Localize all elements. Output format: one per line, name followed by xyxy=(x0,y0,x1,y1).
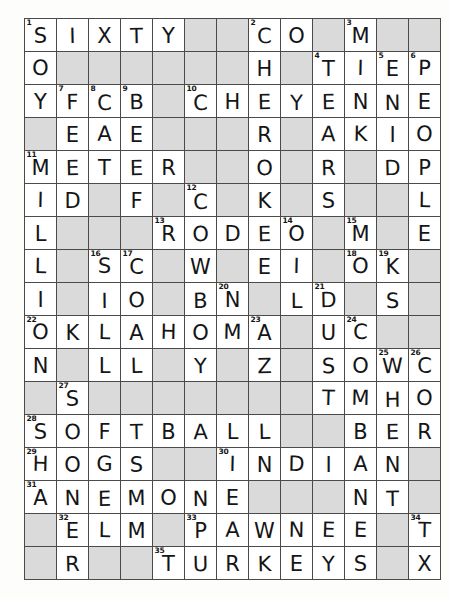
crossword-cell[interactable]: N xyxy=(377,448,409,481)
crossword-cell[interactable]: T xyxy=(377,481,409,514)
crossword-cell[interactable]: 10C xyxy=(185,85,217,118)
crossword-cell[interactable]: I xyxy=(25,283,57,316)
crossword-cell[interactable]: O xyxy=(409,382,441,415)
crossword-cell[interactable]: D xyxy=(377,151,409,184)
crossword-cell[interactable]: Y xyxy=(281,85,313,118)
crossword-cell[interactable]: O xyxy=(57,448,89,481)
crossword-cell[interactable]: 32E xyxy=(57,514,89,547)
crossword-cell[interactable]: I xyxy=(281,250,313,283)
crossword-cell[interactable]: 28S xyxy=(25,415,57,448)
crossword-cell[interactable]: M xyxy=(345,382,377,415)
crossword-cell[interactable]: Y xyxy=(25,85,57,118)
crossword-cell[interactable]: E xyxy=(313,514,345,547)
crossword-cell[interactable]: E xyxy=(249,217,281,250)
crossword-cell[interactable]: Y xyxy=(153,19,185,52)
crossword-cell[interactable]: L xyxy=(89,349,121,382)
crossword-cell[interactable]: S xyxy=(121,448,153,481)
crossword-cell[interactable]: R xyxy=(409,415,441,448)
crossword-cell[interactable]: K xyxy=(57,316,89,349)
crossword-cell[interactable]: S xyxy=(313,184,345,217)
crossword-cell[interactable]: A xyxy=(121,316,153,349)
crossword-cell[interactable]: F xyxy=(89,415,121,448)
crossword-cell[interactable]: E xyxy=(409,85,441,118)
crossword-cell[interactable]: M xyxy=(121,514,153,547)
crossword-cell[interactable]: W xyxy=(185,250,217,283)
crossword-cell[interactable]: 21D xyxy=(313,283,345,316)
crossword-cell[interactable]: 30I xyxy=(217,448,249,481)
crossword-cell[interactable]: E xyxy=(217,481,249,514)
crossword-cell[interactable]: E xyxy=(249,250,281,283)
crossword-cell[interactable]: 19K xyxy=(377,250,409,283)
crossword-cell[interactable]: 8C xyxy=(89,85,121,118)
crossword-cell[interactable]: H xyxy=(153,316,185,349)
crossword-cell[interactable]: I xyxy=(25,184,57,217)
crossword-cell[interactable]: D xyxy=(57,184,89,217)
crossword-cell[interactable]: G xyxy=(89,448,121,481)
crossword-cell[interactable]: K xyxy=(249,547,281,580)
crossword-cell[interactable]: D xyxy=(217,217,249,250)
crossword-cell[interactable]: R xyxy=(153,151,185,184)
crossword-cell[interactable]: M xyxy=(121,481,153,514)
crossword-cell[interactable]: 6P xyxy=(409,52,441,85)
crossword-cell[interactable]: 34T xyxy=(409,514,441,547)
crossword-cell[interactable]: 26C xyxy=(409,349,441,382)
crossword-cell[interactable]: E xyxy=(249,85,281,118)
crossword-cell[interactable]: P xyxy=(409,151,441,184)
crossword-cell[interactable]: K xyxy=(345,118,377,151)
crossword-cell[interactable]: X xyxy=(89,19,121,52)
crossword-cell[interactable]: B xyxy=(153,415,185,448)
crossword-cell[interactable]: L xyxy=(25,217,57,250)
crossword-cell[interactable]: 25W xyxy=(377,349,409,382)
crossword-cell[interactable]: E xyxy=(313,85,345,118)
crossword-cell[interactable]: 13R xyxy=(153,217,185,250)
crossword-cell[interactable]: 33P xyxy=(185,514,217,547)
crossword-cell[interactable]: O xyxy=(281,19,313,52)
crossword-cell[interactable]: U xyxy=(313,316,345,349)
crossword-cell[interactable]: 29H xyxy=(25,448,57,481)
crossword-cell[interactable]: Y xyxy=(185,349,217,382)
crossword-cell[interactable]: T xyxy=(121,19,153,52)
crossword-cell[interactable]: I xyxy=(377,118,409,151)
crossword-cell[interactable]: 3M xyxy=(345,19,377,52)
crossword-cell[interactable]: O xyxy=(121,283,153,316)
crossword-cell[interactable]: A xyxy=(345,448,377,481)
crossword-cell[interactable]: 24C xyxy=(345,316,377,349)
crossword-cell[interactable]: D xyxy=(281,448,313,481)
crossword-cell[interactable]: 1S xyxy=(25,19,57,52)
crossword-cell[interactable]: L xyxy=(25,250,57,283)
crossword-cell[interactable]: Z xyxy=(249,349,281,382)
crossword-cell[interactable]: A xyxy=(217,514,249,547)
crossword-cell[interactable]: O xyxy=(345,349,377,382)
crossword-cell[interactable]: R xyxy=(249,118,281,151)
crossword-cell[interactable]: H xyxy=(377,382,409,415)
crossword-cell[interactable]: 17C xyxy=(121,250,153,283)
crossword-cell[interactable]: H xyxy=(217,85,249,118)
crossword-cell[interactable]: L xyxy=(217,415,249,448)
crossword-cell[interactable]: L xyxy=(121,349,153,382)
crossword-cell[interactable]: A xyxy=(313,118,345,151)
crossword-cell[interactable]: H xyxy=(249,52,281,85)
crossword-cell[interactable]: 11M xyxy=(25,151,57,184)
crossword-cell[interactable]: E xyxy=(89,481,121,514)
crossword-cell[interactable]: L xyxy=(249,415,281,448)
crossword-cell[interactable]: O xyxy=(185,316,217,349)
crossword-cell[interactable]: 12C xyxy=(185,184,217,217)
crossword-cell[interactable]: S xyxy=(377,283,409,316)
crossword-cell[interactable]: B xyxy=(345,415,377,448)
crossword-cell[interactable]: L xyxy=(89,316,121,349)
crossword-cell[interactable]: L xyxy=(409,184,441,217)
crossword-cell[interactable]: T xyxy=(313,382,345,415)
crossword-cell[interactable]: U xyxy=(185,547,217,580)
crossword-cell[interactable]: B xyxy=(185,283,217,316)
crossword-cell[interactable]: 4T xyxy=(313,52,345,85)
crossword-cell[interactable]: L xyxy=(281,283,313,316)
crossword-cell[interactable]: S xyxy=(313,349,345,382)
crossword-cell[interactable]: N xyxy=(345,85,377,118)
crossword-cell[interactable]: O xyxy=(249,151,281,184)
crossword-cell[interactable]: R xyxy=(217,547,249,580)
crossword-cell[interactable]: E xyxy=(377,415,409,448)
crossword-cell[interactable]: T xyxy=(121,415,153,448)
crossword-cell[interactable]: F xyxy=(121,184,153,217)
crossword-cell[interactable]: O xyxy=(409,118,441,151)
crossword-cell[interactable]: E xyxy=(57,151,89,184)
